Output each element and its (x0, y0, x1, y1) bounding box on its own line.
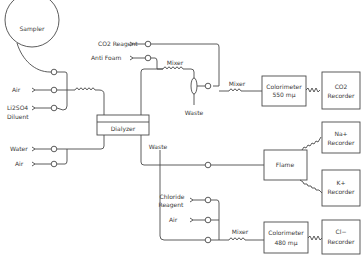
anti-foam-label: Anti Foam (91, 54, 121, 61)
chloride-label-2: Reagent (159, 201, 185, 209)
water-label: Water (10, 145, 28, 152)
colorimeter-480-label-1: Colorimeter (268, 229, 304, 236)
co2-recorder-label-1: CO2 (335, 83, 348, 90)
autoanalyzer-flow-diagram: Sampler Air Li2SO4 Diluent Dialyzer Wate… (0, 0, 363, 263)
anti-foam-line (151, 58, 163, 69)
flame-node: Flame (264, 150, 307, 180)
pump-junction (51, 146, 57, 152)
waste-top-label: Waste (185, 109, 204, 116)
sampler-line (17, 43, 53, 72)
air-3-label: Air (169, 216, 178, 223)
cl-recorder-label-2: Recorder (328, 238, 355, 245)
pump-junction (205, 217, 211, 223)
flame-label: Flame (276, 161, 295, 168)
mixing-coil (75, 88, 104, 115)
colorimeter-550-label-2: 550 mμ (272, 91, 295, 99)
water-air-inlets (32, 147, 51, 166)
mixer-co2-label: Mixer (229, 80, 246, 87)
cl-recorder-label-1: Cl− (336, 228, 347, 235)
dialyzer-node: Dialyzer (97, 115, 149, 135)
cl-recorder-node: Cl− Recorder (322, 220, 360, 254)
chloride-manifold (211, 200, 229, 240)
mixer-co2-coil (219, 89, 262, 91)
pump-junction (205, 237, 211, 243)
k-recorder-label-1: K+ (337, 179, 346, 186)
colorimeter-550-node: Colorimeter 550 mμ (262, 76, 306, 106)
k-recorder-node: K+ Recorder (322, 170, 360, 206)
mixer-cl-label: Mixer (232, 228, 249, 235)
water-line (57, 135, 104, 164)
diluent-inlet (32, 106, 51, 110)
mixer-top-coil (163, 67, 194, 78)
air-1-label: Air (12, 86, 21, 93)
colorimeter-480-label-2: 480 mμ (274, 239, 297, 247)
pump-junction (205, 197, 211, 203)
dialyzer-label: Dialyzer (111, 125, 136, 133)
co2-recorder-node: CO2 Recorder (322, 72, 360, 109)
signal-wire (306, 88, 320, 92)
co2-recorder-label-2: Recorder (328, 92, 355, 99)
dialyzer-to-mixer (141, 69, 163, 115)
dialyzer-to-flame (141, 135, 205, 165)
sampler-node: Sampler (5, 0, 59, 47)
chloride-inlets (190, 198, 205, 222)
pump-junction (205, 162, 211, 168)
pump-junction (205, 83, 211, 89)
na-recorder-node: Na+ Recorder (322, 122, 360, 153)
pump-junction (51, 87, 57, 93)
debubbler (191, 78, 197, 94)
na-recorder-label-2: Recorder (328, 139, 355, 146)
pump-junction (51, 105, 57, 111)
air-1-inlet (32, 88, 51, 92)
diluent-label-2: Diluent (7, 113, 29, 120)
na-recorder-label-1: Na+ (334, 130, 347, 137)
chloride-label-1: Chloride (160, 193, 185, 200)
k-signal-wire (300, 180, 323, 194)
waste-mid-label: Waste (149, 143, 168, 150)
diluent-label-1: Li2SO4 (7, 104, 28, 111)
manifold-lines (57, 72, 75, 110)
mixer-cl-coil (229, 238, 264, 240)
k-recorder-label-2: Recorder (328, 188, 355, 195)
pump-junction (51, 69, 57, 75)
mixer-top-label: Mixer (167, 59, 184, 66)
co2-reagent-line (151, 44, 219, 86)
pump-junction (51, 161, 57, 167)
colorimeter-550-label-1: Colorimeter (266, 83, 302, 90)
sampler-label: Sampler (20, 25, 45, 33)
co2-reagent-label: CO2 Reagent (98, 40, 138, 48)
na-signal-wire (302, 137, 321, 150)
air-2-label: Air (15, 160, 24, 167)
pump-junction (145, 55, 151, 61)
pump-junction (145, 41, 151, 47)
cl-signal-wire (308, 236, 322, 240)
colorimeter-480-node: Colorimeter 480 mμ (264, 222, 308, 253)
